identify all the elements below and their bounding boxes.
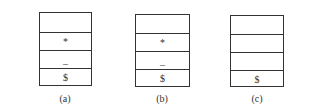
stack-b: * _ $	[135, 14, 190, 87]
stack-a-cell-4: $	[40, 68, 91, 87]
caption-a: (a)	[45, 93, 85, 104]
stack-c-cell-4: $	[231, 70, 283, 88]
stack-c-cell-2	[231, 34, 283, 53]
stack-a-cell-1	[40, 13, 91, 32]
stack-b-cell-3: _	[136, 51, 189, 70]
stack-b-cell-2: *	[136, 33, 189, 52]
caption-b: (b)	[142, 93, 182, 104]
stack-a-cell-2: *	[40, 32, 91, 51]
stack-c: $	[230, 15, 284, 87]
stack-c-cell-1	[231, 16, 283, 34]
stack-b-cell-4: $	[136, 69, 189, 88]
stack-a: * _ $	[39, 12, 92, 86]
caption-c: (c)	[237, 93, 277, 104]
stack-c-cell-3	[231, 52, 283, 71]
stack-a-cell-3: _	[40, 50, 91, 69]
stack-b-cell-1	[136, 15, 189, 33]
